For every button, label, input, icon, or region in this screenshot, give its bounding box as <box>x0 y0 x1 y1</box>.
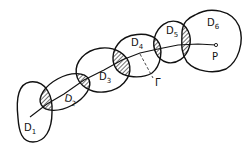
label-p: P <box>212 51 218 62</box>
domain-chain-diagram: D1 D2 D3 D4 D5 D6 Γ P <box>0 0 251 149</box>
label-d1: D1 <box>24 122 36 136</box>
label-d4: D4 <box>131 37 144 51</box>
label-d5: D5 <box>166 25 178 39</box>
label-d2: D2 <box>63 92 78 108</box>
label-d6: D6 <box>207 17 220 31</box>
label-gamma: Γ <box>155 77 161 88</box>
gamma-leader-line <box>140 54 153 78</box>
point-p-marker <box>214 43 217 46</box>
diagram-svg: D1 D2 D3 D4 D5 D6 Γ P <box>0 0 251 149</box>
label-d3: D3 <box>99 71 111 85</box>
